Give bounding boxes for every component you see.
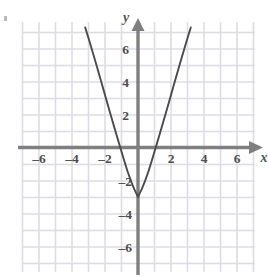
x-tick-label: 2 [168,151,175,166]
coordinate-plane: –6 –4 –2 2 4 6 6 4 2 –2 –4 –6 y x [0,0,268,277]
graph-figure: –6 –4 –2 2 4 6 6 4 2 –2 –4 –6 y x [0,0,268,277]
x-axis-label: x [260,150,268,165]
x-tick-label: –2 [97,151,112,166]
y-tick-label: –6 [118,240,133,255]
y-axis-arrow-icon [132,18,145,31]
y-tick-label: –2 [118,174,133,189]
y-axis-label: y [121,10,130,25]
y-tick-label: 2 [122,108,129,123]
x-tick-label: 6 [234,151,241,166]
corner-artifact-mark [4,16,7,21]
y-tick-label: 4 [122,75,129,90]
y-tick-label: –4 [118,207,133,222]
y-tick-label: 6 [122,42,129,57]
x-tick-label: –6 [31,151,46,166]
x-tick-label: 4 [201,151,208,166]
x-tick-label: –4 [64,151,79,166]
